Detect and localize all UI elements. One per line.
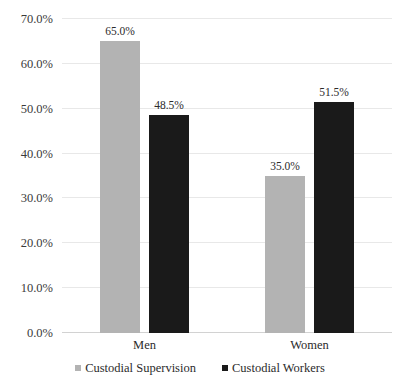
bar-men-custodial-supervision[interactable]: 65.0%: [100, 41, 140, 333]
bar-value-label: 51.5%: [319, 87, 349, 99]
category-label-men: Men: [133, 339, 156, 352]
legend-item-label: Custodial Supervision: [85, 362, 196, 375]
legend: Custodial Supervision Custodial Workers: [0, 362, 400, 375]
y-tick-label: 40.0%: [21, 147, 53, 160]
bar-value-label: 35.0%: [270, 161, 300, 173]
y-tick-label: 10.0%: [21, 282, 53, 295]
y-tick-label: 30.0%: [21, 192, 53, 205]
legend-item-custodial-workers[interactable]: Custodial Workers: [222, 362, 325, 375]
legend-item-custodial-supervision[interactable]: Custodial Supervision: [75, 362, 196, 375]
bar-women-custodial-workers[interactable]: 51.5%: [314, 102, 354, 333]
legend-item-label: Custodial Workers: [232, 362, 325, 375]
bar-women-custodial-supervision[interactable]: 35.0%: [265, 176, 305, 333]
y-tick-label: 50.0%: [21, 102, 53, 115]
bar-value-label: 65.0%: [105, 26, 135, 38]
y-axis: 70.0% 60.0% 50.0% 40.0% 30.0% 20.0% 10.0…: [0, 0, 62, 386]
bar-chart: 70.0% 60.0% 50.0% 40.0% 30.0% 20.0% 10.0…: [0, 0, 400, 386]
y-tick-label: 60.0%: [21, 58, 53, 71]
bar-value-label: 48.5%: [154, 100, 184, 112]
x-axis-category-labels: Men Women: [62, 333, 392, 359]
bar-men-custodial-workers[interactable]: 48.5%: [149, 115, 189, 333]
plot-area: 65.0% 48.5% 35.0% 51.5%: [62, 19, 392, 333]
legend-swatch-icon: [222, 365, 228, 371]
legend-swatch-icon: [75, 365, 81, 371]
y-tick-label: 70.0%: [21, 13, 53, 26]
category-label-women: Women: [290, 339, 329, 352]
bars-layer: 65.0% 48.5% 35.0% 51.5%: [62, 19, 392, 333]
y-tick-label: 0.0%: [27, 327, 53, 340]
y-tick-label: 20.0%: [21, 237, 53, 250]
